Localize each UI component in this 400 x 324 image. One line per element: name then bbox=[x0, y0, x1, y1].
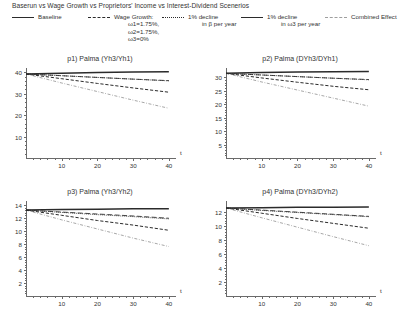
x-minor-tick bbox=[69, 296, 70, 298]
y-tick-label: 14 bbox=[2, 201, 22, 208]
y-tick-label: 2 bbox=[202, 279, 222, 286]
x-minor-tick bbox=[347, 158, 348, 160]
x-minor-tick bbox=[326, 296, 327, 298]
x-minor-tick bbox=[269, 158, 270, 160]
x-tick-label: 30 bbox=[130, 162, 137, 169]
y-tick-label: 5 bbox=[202, 141, 222, 148]
y-tick-label: 4 bbox=[2, 266, 22, 273]
x-tick-label: 20 bbox=[294, 162, 301, 169]
x-tick-label: 10 bbox=[58, 300, 65, 307]
x-minor-tick bbox=[155, 296, 156, 298]
x-minor-tick bbox=[340, 158, 341, 160]
y-tick-label: 20 bbox=[202, 101, 222, 108]
y-tick-label: 4 bbox=[202, 265, 222, 272]
x-minor-tick bbox=[319, 158, 320, 160]
panel-p2: p2) Palma (DYh3/DYh1)5101520253010203040… bbox=[200, 55, 400, 183]
series-line bbox=[226, 208, 369, 228]
x-tick bbox=[97, 158, 98, 161]
x-tick-label: 20 bbox=[94, 300, 101, 307]
legend-label: 1% declinein β per year bbox=[188, 13, 237, 28]
legend-label: Baseline bbox=[38, 13, 62, 20]
y-tick-label: 8 bbox=[2, 240, 22, 247]
series-line bbox=[226, 73, 369, 89]
y-tick-label: 10 bbox=[202, 223, 222, 230]
x-minor-tick bbox=[47, 158, 48, 160]
x-tick-label: 10 bbox=[258, 162, 265, 169]
series-line bbox=[26, 210, 169, 230]
y-tick-label: 8 bbox=[202, 237, 222, 244]
x-minor-tick bbox=[247, 158, 248, 160]
plot-area: 246810121410203040t bbox=[26, 201, 176, 296]
plot-area: 1020304010203040t bbox=[26, 68, 176, 158]
series-layer bbox=[26, 68, 176, 158]
x-minor-tick bbox=[355, 296, 356, 298]
x-minor-tick bbox=[276, 158, 277, 160]
x-minor-tick bbox=[283, 296, 284, 298]
x-axis bbox=[26, 296, 176, 297]
y-tick-label: 2 bbox=[2, 279, 22, 286]
x-tick bbox=[97, 296, 98, 299]
legend-label: Wage Growth:ω1=1.75%,ω2=1.75%,ω3=0% bbox=[114, 13, 159, 43]
x-tick-label: 40 bbox=[365, 162, 372, 169]
x-minor-tick bbox=[55, 296, 56, 298]
series-line bbox=[26, 209, 169, 210]
plot-area: 2468101210203040t bbox=[226, 201, 376, 296]
x-tick bbox=[297, 158, 298, 161]
x-axis bbox=[226, 158, 376, 159]
x-tick bbox=[333, 158, 334, 161]
x-minor-tick bbox=[312, 158, 313, 160]
x-minor-tick bbox=[162, 296, 163, 298]
series-layer bbox=[26, 201, 176, 296]
x-minor-tick bbox=[112, 296, 113, 298]
x-minor-tick bbox=[312, 296, 313, 298]
legend-swatch-solid-icon bbox=[12, 17, 34, 18]
series-line bbox=[226, 208, 369, 246]
x-minor-tick bbox=[347, 296, 348, 298]
x-minor-tick bbox=[362, 296, 363, 298]
x-minor-tick bbox=[147, 296, 148, 298]
x-minor-tick bbox=[162, 158, 163, 160]
x-minor-tick bbox=[105, 158, 106, 160]
x-tick bbox=[62, 158, 63, 161]
x-minor-tick bbox=[83, 158, 84, 160]
x-minor-tick bbox=[126, 296, 127, 298]
x-tick bbox=[169, 158, 170, 161]
series-layer bbox=[226, 68, 376, 158]
x-tick bbox=[333, 296, 334, 299]
legend-sublabel: ω2=1.75%, bbox=[114, 28, 159, 35]
x-tick-label: 10 bbox=[58, 162, 65, 169]
x-minor-tick bbox=[240, 296, 241, 298]
x-minor-tick bbox=[340, 296, 341, 298]
y-tick-label: 25 bbox=[202, 87, 222, 94]
x-minor-tick bbox=[76, 296, 77, 298]
y-tick-label: 12 bbox=[202, 209, 222, 216]
y-tick-label: 30 bbox=[2, 90, 22, 97]
x-minor-tick bbox=[140, 158, 141, 160]
x-minor-tick bbox=[319, 296, 320, 298]
x-minor-tick bbox=[112, 158, 113, 160]
x-tick bbox=[133, 296, 134, 299]
y-tick-label: 12 bbox=[2, 214, 22, 221]
legend-swatch-dotted-icon bbox=[162, 17, 184, 18]
x-axis bbox=[26, 158, 176, 159]
y-tick-label: 6 bbox=[202, 251, 222, 258]
legend: BaselineWage Growth:ω1=1.75%,ω2=1.75%,ω3… bbox=[12, 13, 400, 49]
x-tick-label: 20 bbox=[94, 162, 101, 169]
legend-swatch-dashed-icon bbox=[88, 17, 110, 18]
x-minor-tick bbox=[119, 296, 120, 298]
legend-sublabel: in ω3 per year bbox=[267, 20, 320, 27]
x-tick-label: 20 bbox=[294, 300, 301, 307]
x-tick bbox=[369, 296, 370, 299]
y-tick-label: 10 bbox=[2, 227, 22, 234]
x-minor-tick bbox=[326, 158, 327, 160]
x-tick-label: 30 bbox=[130, 300, 137, 307]
figure: Baserun vs Wage Growth vs Proprietors' I… bbox=[0, 0, 400, 324]
y-tick-label: 10 bbox=[2, 133, 22, 140]
y-tick-label: 10 bbox=[202, 128, 222, 135]
x-minor-tick bbox=[255, 158, 256, 160]
x-minor-tick bbox=[233, 158, 234, 160]
legend-sublabel: ω3=0% bbox=[114, 35, 159, 42]
x-minor-tick bbox=[255, 296, 256, 298]
x-minor-tick bbox=[90, 158, 91, 160]
legend-swatch-dash-dot-icon bbox=[325, 17, 347, 18]
